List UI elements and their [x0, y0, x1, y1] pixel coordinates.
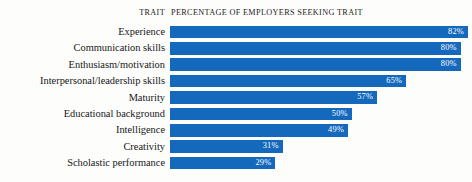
bar-track: 49%: [170, 122, 468, 138]
column-header-percentage: PERCENTAGE OF EMPLOYERS SEEKING TRAIT: [171, 8, 363, 17]
bar-track: 31%: [170, 139, 468, 155]
bar-track: 82%: [170, 24, 468, 40]
bar: 80%: [170, 42, 461, 55]
bar-value-label: 82%: [448, 26, 464, 39]
chart-row: Interpersonal/leadership skills65%: [0, 73, 472, 89]
chart-row: Educational background50%: [0, 106, 472, 122]
chart-row: Scholastic performance29%: [0, 155, 472, 171]
bar-track: 29%: [170, 155, 468, 171]
bar-value-label: 80%: [441, 58, 457, 71]
bar-value-label: 49%: [328, 124, 344, 137]
bar: 82%: [170, 26, 468, 39]
category-label: Intelligence: [0, 122, 165, 138]
bar-track: 80%: [170, 57, 468, 73]
chart-row: Experience82%: [0, 24, 472, 40]
chart-row: Enthusiasm/motivation80%: [0, 57, 472, 73]
bar-chart: TRAIT PERCENTAGE OF EMPLOYERS SEEKING TR…: [0, 0, 472, 182]
category-label: Experience: [0, 24, 165, 40]
bar-value-label: 80%: [441, 42, 457, 55]
chart-row: Maturity57%: [0, 90, 472, 106]
chart-row: Intelligence49%: [0, 122, 472, 138]
plot-area: Experience82%Communication skills80%Enth…: [0, 24, 472, 176]
category-label: Maturity: [0, 90, 165, 106]
bar-track: 50%: [170, 106, 468, 122]
chart-row: Communication skills80%: [0, 40, 472, 56]
bar: 57%: [170, 91, 377, 104]
bar-value-label: 50%: [332, 108, 348, 121]
bar: 29%: [170, 157, 275, 170]
category-label: Scholastic performance: [0, 155, 165, 171]
bar: 80%: [170, 58, 461, 71]
bar: 50%: [170, 108, 352, 121]
bar-track: 80%: [170, 40, 468, 56]
category-label: Creativity: [0, 139, 165, 155]
category-label: Enthusiasm/motivation: [0, 57, 165, 73]
bar-value-label: 31%: [263, 140, 279, 153]
category-label: Interpersonal/leadership skills: [0, 73, 165, 89]
category-label: Communication skills: [0, 40, 165, 56]
bar: 49%: [170, 124, 348, 137]
bar-value-label: 65%: [386, 75, 402, 88]
bar-track: 65%: [170, 73, 468, 89]
chart-header: TRAIT PERCENTAGE OF EMPLOYERS SEEKING TR…: [0, 8, 472, 22]
column-header-trait: TRAIT: [0, 8, 165, 17]
bar-track: 57%: [170, 90, 468, 106]
chart-row: Creativity31%: [0, 139, 472, 155]
bar: 31%: [170, 140, 283, 153]
bar: 65%: [170, 75, 406, 88]
bar-value-label: 57%: [357, 91, 373, 104]
category-label: Educational background: [0, 106, 165, 122]
bar-value-label: 29%: [255, 157, 271, 170]
